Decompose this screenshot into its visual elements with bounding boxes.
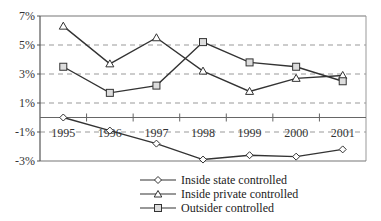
diamond-marker <box>60 114 67 121</box>
triangle-marker <box>59 22 67 29</box>
legend-label: Outsider controlled <box>181 201 274 215</box>
y-tick-label: 1% <box>19 96 35 110</box>
legend: Inside state controlled Inside private c… <box>138 173 298 215</box>
gridlines <box>40 45 366 132</box>
square-marker <box>293 63 300 70</box>
diamond-marker-icon <box>138 175 178 185</box>
legend-label: Inside private controlled <box>181 187 298 201</box>
legend-label: Inside state controlled <box>181 173 287 187</box>
square-marker <box>60 63 67 70</box>
y-tick-label: 7% <box>19 9 35 23</box>
diamond-marker <box>246 152 253 159</box>
legend-item-inside-private: Inside private controlled <box>138 187 298 201</box>
x-tick-label: 1999 <box>238 126 262 140</box>
x-tick-label: 1995 <box>51 126 75 140</box>
legend-item-outsider: Outsider controlled <box>138 201 298 215</box>
diamond-marker <box>153 140 160 147</box>
x-tick-label: 2000 <box>284 126 308 140</box>
square-marker-icon <box>138 203 178 213</box>
diamond-marker <box>339 146 346 153</box>
x-tick-label: 1997 <box>144 126 168 140</box>
x-tick-label: 2001 <box>331 126 355 140</box>
y-tick-label: -1% <box>15 125 35 139</box>
y-axis-ticks: 7%5%3%1%-1%-3% <box>15 9 35 168</box>
diamond-marker <box>200 156 207 163</box>
square-marker <box>246 59 253 66</box>
y-tick-label: 5% <box>19 38 35 52</box>
square-marker <box>200 39 207 46</box>
diamond-marker <box>293 153 300 160</box>
legend-item-inside-state: Inside state controlled <box>138 173 298 187</box>
triangle-marker-icon <box>138 189 178 199</box>
square-marker <box>106 89 113 96</box>
data-series <box>59 22 346 163</box>
square-marker <box>153 82 160 89</box>
triangle-marker <box>152 34 160 41</box>
square-marker <box>339 78 346 85</box>
y-tick-label: 3% <box>19 67 35 81</box>
triangle-marker <box>199 67 207 74</box>
y-tick-label: -3% <box>15 154 35 168</box>
x-tick-label: 1998 <box>191 126 215 140</box>
